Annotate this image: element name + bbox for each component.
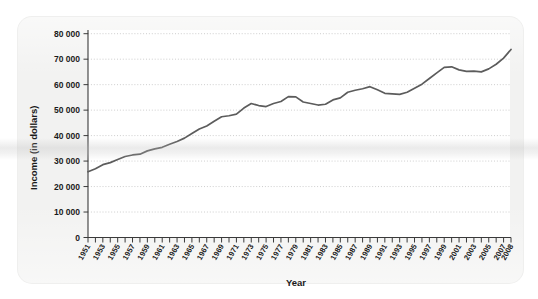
x-axis-tick-label: 1995	[403, 242, 420, 262]
figure-container: 010 00020 00030 00040 00050 00060 00070 …	[0, 0, 538, 299]
x-axis-ticks-group	[88, 238, 511, 243]
y-axis-tick-label: 20 000	[54, 182, 80, 192]
x-axis-tick-label: 1981	[299, 242, 316, 262]
x-axis-tick-label: 1997	[417, 243, 433, 262]
x-axis-tick-label: 1977	[269, 243, 285, 262]
x-axis-tick-label: 1969	[210, 243, 226, 262]
x-axis-tick-label: 1967	[195, 243, 211, 262]
y-axis-ticks-group	[84, 34, 89, 238]
y-axis-tick-labels-group: 010 00020 00030 00040 00050 00060 00070 …	[54, 29, 80, 243]
x-axis-tick-label: 2005	[477, 242, 494, 262]
x-axis-tick-label: 1961	[150, 242, 167, 262]
x-axis-tick-label: 1979	[284, 243, 300, 262]
x-axis-tick-label: 1999	[432, 243, 448, 262]
y-axis-title: Income (in dollars)	[28, 106, 39, 190]
x-axis-tick-label: 1965	[180, 242, 197, 262]
x-axis-tick-label: 1951	[76, 242, 93, 262]
x-axis-tick-label: 1959	[135, 243, 151, 262]
y-axis-tick-label: 50 000	[54, 105, 80, 115]
line-chart: 010 00020 00030 00040 00050 00060 00070 …	[0, 0, 538, 299]
y-axis-tick-label: 40 000	[54, 131, 80, 141]
x-axis-tick-label: 1985	[328, 242, 345, 262]
y-axis-tick-label: 10 000	[54, 207, 80, 217]
x-axis-tick-label: 1975	[254, 242, 271, 262]
x-axis-tick-label: 2001	[447, 242, 464, 262]
x-axis-tick-label: 1989	[358, 243, 374, 262]
x-axis-tick-label: 1973	[239, 243, 255, 262]
x-axis-tick-label: 1957	[121, 243, 137, 262]
x-axis-tick-label: 1991	[373, 242, 390, 262]
y-axis-tick-label: 60 000	[54, 80, 80, 90]
x-axis-tick-labels-group: 1951195319551957195919611963196519671969…	[76, 242, 515, 262]
x-axis-title: Year	[286, 277, 306, 288]
x-axis-tick-label: 1971	[225, 242, 242, 262]
plot-area-background	[88, 30, 510, 237]
x-axis-tick-label: 1953	[91, 243, 107, 262]
x-axis-tick-label: 1955	[106, 242, 123, 262]
y-axis-tick-label: 30 000	[54, 156, 80, 166]
y-axis-tick-label: 0	[75, 233, 80, 243]
x-axis-tick-label: 1993	[388, 243, 404, 262]
x-axis-tick-label: 1963	[165, 243, 181, 262]
x-axis-tick-label: 1983	[314, 243, 330, 262]
x-axis-tick-label: 1987	[343, 243, 359, 262]
y-axis-tick-label: 80 000	[54, 29, 80, 39]
y-axis-tick-label: 70 000	[54, 54, 80, 64]
x-axis-tick-label: 2003	[462, 243, 478, 262]
